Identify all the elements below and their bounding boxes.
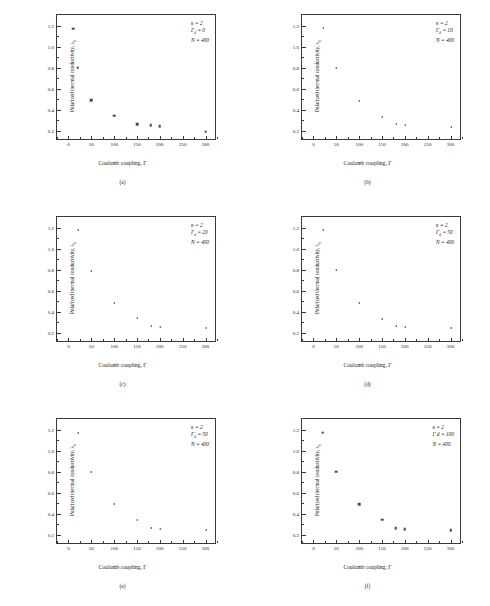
x-tick-mark — [359, 136, 360, 140]
x-tick-minor — [126, 541, 127, 543]
x-tick-label: 0 — [67, 344, 70, 349]
y-tick-mark — [57, 312, 61, 313]
x-tick-label: 300 — [202, 546, 210, 551]
y-tick-minor — [302, 280, 304, 281]
annotation-gamma: Γd = 50 — [191, 431, 209, 441]
y-tick-mark — [302, 26, 306, 27]
y-tick-label: 1.2 — [48, 427, 54, 432]
x-tick-mark — [405, 540, 406, 544]
y-tick-label: 0.6 — [48, 288, 54, 293]
x-tick-minor — [194, 541, 195, 543]
y-tick-label: 0.8 — [293, 267, 299, 272]
data-point — [159, 326, 161, 328]
annotation-gamma-value: = 50 — [197, 431, 207, 437]
y-tick-mark — [302, 131, 306, 132]
x-axis-label: Coulomb coupling, Γ — [0, 160, 245, 166]
x-tick-minor — [80, 339, 81, 341]
x-axis-label: Coulomb coupling, Γ — [0, 362, 245, 368]
y-tick-minor — [57, 99, 59, 100]
panel-annotation: κ = 2Γd = 20N = 400 — [191, 222, 209, 247]
x-tick-mark — [382, 338, 383, 342]
y-tick-mark — [57, 451, 61, 452]
x-tick-label: 150 — [133, 142, 141, 147]
panel-tag: (b) — [245, 179, 490, 185]
x-tick-minor — [371, 541, 372, 543]
y-tick-label: 1.2 — [293, 23, 299, 28]
x-tick-minor — [302, 541, 303, 543]
y-tick-mark — [302, 535, 306, 536]
y-tick-mark — [57, 131, 61, 132]
annotation-kappa: κ = 2 — [436, 222, 454, 229]
y-tick-mark — [302, 312, 306, 313]
x-tick-minor — [80, 541, 81, 543]
annotation-gamma-symbol: Γ d — [432, 431, 439, 437]
x-tick-minor — [57, 137, 58, 139]
y-tick-minor — [302, 259, 304, 260]
data-point — [205, 529, 207, 531]
plot-area: 0.20.40.60.81.01.2050100150200250300κ = … — [301, 14, 461, 140]
data-point — [136, 519, 138, 521]
y-tick-label: 0.2 — [48, 330, 54, 335]
x-tick-minor — [393, 339, 394, 341]
y-tick-minor — [57, 238, 59, 239]
data-point — [358, 302, 360, 304]
data-point — [90, 99, 93, 102]
annotation-gamma-subscript: d — [439, 31, 441, 35]
data-point — [113, 503, 115, 505]
annotation-gamma: Γd = 20 — [191, 229, 209, 239]
annotation-gamma-value: = 50 — [442, 229, 452, 235]
data-point — [149, 124, 152, 127]
y-tick-mark — [57, 333, 61, 334]
y-tick-mark — [302, 451, 306, 452]
data-point — [159, 528, 161, 530]
figure-multi-panel-scatter: 0.20.40.60.81.01.2050100150200250300κ = … — [0, 0, 490, 606]
data-point — [90, 471, 92, 473]
y-tick-mark — [302, 110, 306, 111]
panel-a: 0.20.40.60.81.01.2050100150200250300κ = … — [0, 0, 245, 202]
data-point — [449, 529, 452, 532]
annotation-n: N = 400 — [436, 239, 454, 246]
y-tick-label: 0.4 — [48, 309, 54, 314]
data-point — [136, 123, 139, 126]
y-tick-minor — [302, 503, 304, 504]
y-tick-label: 0.2 — [48, 128, 54, 133]
y-tick-mark — [302, 493, 306, 494]
annotation-gamma-value: = 0 — [197, 27, 205, 33]
panel-c: 0.20.40.60.81.01.2050100150200250300κ = … — [0, 202, 245, 404]
data-point — [358, 503, 361, 506]
panel-tag: (e) — [0, 583, 245, 589]
x-tick-label: 150 — [133, 546, 141, 551]
x-tick-label: 200 — [156, 142, 164, 147]
x-tick-mark — [359, 540, 360, 544]
x-tick-label: 300 — [447, 546, 455, 551]
y-tick-label: 0.6 — [48, 490, 54, 495]
x-tick-minor — [325, 339, 326, 341]
x-tick-mark — [451, 136, 452, 140]
y-tick-mark — [57, 430, 61, 431]
x-tick-label: 250 — [179, 546, 187, 551]
y-tick-label: 1.2 — [293, 225, 299, 230]
x-tick-mark — [336, 540, 337, 544]
x-tick-label: 100 — [110, 142, 118, 147]
annotation-n: N = 400 — [436, 37, 454, 44]
y-tick-minor — [302, 57, 304, 58]
plot-area: 0.20.40.60.81.01.2050100150200250300κ = … — [56, 216, 216, 342]
y-tick-label: 0.6 — [293, 86, 299, 91]
plot-area: 0.20.40.60.81.01.2050100150200250300κ = … — [56, 14, 216, 140]
x-tick-minor — [103, 339, 104, 341]
panel-f: 0.20.40.60.81.01.2050100150200250300κ = … — [245, 404, 490, 606]
y-axis-label: Polarized thermal conductivity, λb — [69, 218, 77, 338]
x-tick-minor — [348, 137, 349, 139]
x-tick-label: 200 — [401, 546, 409, 551]
x-tick-label: 50 — [89, 546, 94, 551]
data-point — [381, 116, 383, 118]
x-tick-mark — [137, 338, 138, 342]
y-tick-minor — [57, 440, 59, 441]
x-tick-minor — [80, 137, 81, 139]
y-tick-minor — [57, 503, 59, 504]
y-tick-label: 1.0 — [48, 246, 54, 251]
y-tick-minor — [302, 78, 304, 79]
data-point — [381, 519, 384, 522]
annotation-gamma-value: = 100 — [441, 431, 454, 437]
y-tick-minor — [302, 301, 304, 302]
